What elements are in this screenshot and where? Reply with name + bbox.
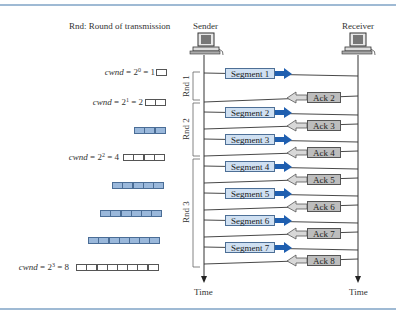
receiver-computer-icon xyxy=(342,33,375,55)
round-label-3: Rnd 3 xyxy=(181,201,191,223)
cwnd-label-8: cwnd = 23 = 8 xyxy=(19,262,69,272)
window-in-flight-6 xyxy=(101,210,162,217)
segment-7: Segment 7 xyxy=(225,242,275,253)
ack-5: Ack 5 xyxy=(307,174,341,185)
ack-6: Ack 6 xyxy=(307,201,341,212)
cwnd-label-2: cwnd = 21 = 2 xyxy=(93,97,143,107)
segment-3: Segment 3 xyxy=(225,134,275,145)
window-in-flight-3 xyxy=(135,127,166,134)
window-cwnd-4 xyxy=(124,154,165,161)
segment-2: Segment 2 xyxy=(225,107,275,118)
sender-computer-icon xyxy=(190,33,223,55)
window-in-flight-7 xyxy=(89,237,160,244)
ack-8: Ack 8 xyxy=(307,255,341,266)
window-cwnd-1 xyxy=(157,69,167,76)
time-arrow-right-icon xyxy=(355,276,361,283)
segment-6: Segment 6 xyxy=(225,215,275,226)
segment-1: Segment 1 xyxy=(225,68,275,79)
window-cwnd-8 xyxy=(77,264,159,271)
window-cwnd-2 xyxy=(146,99,166,106)
ack-3: Ack 3 xyxy=(307,120,341,131)
ack-7: Ack 7 xyxy=(307,228,341,239)
segment-arrows xyxy=(273,68,292,253)
segment-5: Segment 5 xyxy=(225,188,275,199)
cwnd-label-1: cwnd = 20 = 1 xyxy=(105,67,155,77)
segment-4: Segment 4 xyxy=(225,161,275,172)
ack-4: Ack 4 xyxy=(307,147,341,158)
ack-arrows xyxy=(287,92,307,266)
window-in-flight-5 xyxy=(113,182,164,189)
cwnd-label-4: cwnd = 22 = 4 xyxy=(69,152,119,162)
time-arrow-left-icon xyxy=(201,276,207,283)
ack-2: Ack 2 xyxy=(307,92,341,103)
round-label-2: Rnd 2 xyxy=(181,118,191,140)
round-label-1: Rnd 1 xyxy=(181,75,191,97)
round-brackets xyxy=(193,72,200,267)
